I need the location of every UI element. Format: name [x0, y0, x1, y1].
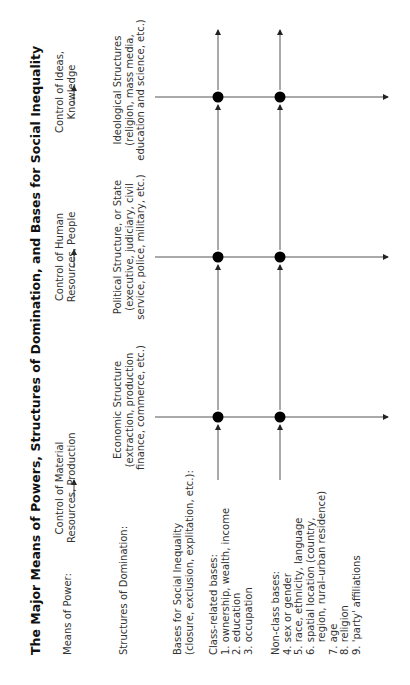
structure-ideological: Ideological Structures (religion, mass m…	[112, 15, 147, 165]
non-class-bases: Non-class bases: 4. sex or gender 5. rac…	[270, 491, 362, 655]
structure-political: Political Structure, or State (executive…	[112, 172, 147, 322]
structure-economic: Economic Structure (extraction, producti…	[112, 350, 147, 470]
diagram-title: The Major Means of Powers, Structures of…	[28, 46, 43, 655]
list-item: 3. occupation	[243, 508, 255, 655]
list-item: 4. sex or gender	[282, 491, 294, 655]
non-class-label: Non-class bases:	[270, 491, 282, 655]
structures-of-domination-label: Structures of Domination:	[118, 526, 130, 655]
list-item: 7. age	[328, 491, 340, 655]
intersection-dot	[213, 92, 224, 103]
means-economic: Control of Material Resources, Productio…	[54, 433, 77, 543]
means-political: Control of Human Resources, People	[54, 202, 77, 312]
list-item: 9. 'party' affiliations	[351, 491, 363, 655]
intersection-dot	[275, 412, 286, 423]
list-item: 2. education	[231, 508, 243, 655]
intersection-dot	[213, 412, 224, 423]
intersection-dot	[213, 252, 224, 263]
list-item: region, rural–urban residence)	[316, 491, 328, 655]
bases-heading: Bases for Social Inequality (closure, ex…	[172, 470, 195, 655]
list-item: 1. ownership, wealth, income	[220, 508, 232, 655]
class-related-bases: Class-related bases: 1. ownership, wealt…	[208, 508, 254, 655]
intersection-dot	[275, 252, 286, 263]
means-of-power-label: Means of Power:	[62, 573, 74, 655]
intersection-dot	[275, 92, 286, 103]
class-related-label: Class-related bases:	[208, 508, 220, 655]
list-item: 5. race, ethnicity, language	[293, 491, 305, 655]
means-ideological: Control of Ideas, Knowledge	[54, 42, 77, 142]
list-item: 6. spatial location (country,	[305, 491, 317, 655]
list-item: 8. religion	[339, 491, 351, 655]
